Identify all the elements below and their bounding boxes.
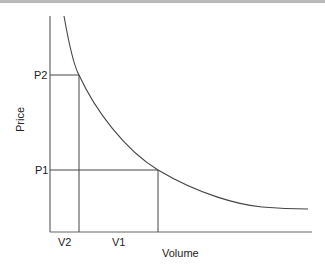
tick-label-p1: P1 <box>35 165 48 176</box>
demand-curve <box>64 16 308 209</box>
tick-label-v2: V2 <box>58 237 71 248</box>
tick-label-p2: P2 <box>34 70 47 81</box>
price-volume-diagram <box>0 0 325 268</box>
x-axis-title: Volume <box>162 248 199 259</box>
y-axis-title: Price <box>14 107 26 132</box>
tick-label-v1: V1 <box>112 237 125 248</box>
